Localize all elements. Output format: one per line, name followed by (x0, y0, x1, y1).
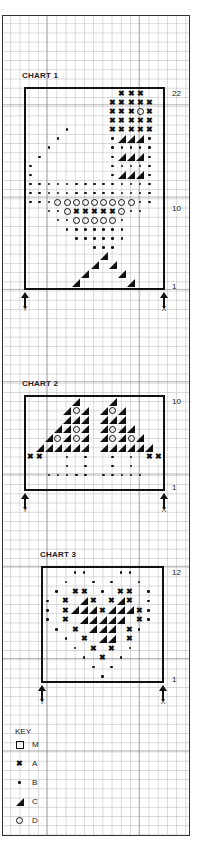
dot-stitch-icon (99, 471, 108, 480)
dot-stitch-icon (127, 179, 136, 188)
half-stitch-icon (127, 279, 136, 288)
cross-stitch-icon (117, 125, 126, 134)
circle-stitch-icon (127, 434, 136, 443)
dot-stitch-icon (99, 243, 108, 252)
half-stitch-icon (117, 170, 126, 179)
cross-stitch-icon (107, 644, 116, 653)
dot-stitch-icon (35, 198, 44, 207)
dot-stitch-icon (72, 225, 81, 234)
dot-stitch-icon (145, 143, 154, 152)
cross-stitch-icon (127, 98, 136, 107)
half-stitch-icon (116, 615, 125, 624)
chart-1-title: CHART 1 (22, 71, 58, 80)
half-stitch-icon (145, 443, 154, 452)
dot-stitch-icon (99, 189, 108, 198)
dot-stitch-icon (63, 125, 72, 134)
dot-stitch-icon (107, 662, 116, 671)
dot-stitch-icon (145, 198, 154, 207)
dot-stitch-icon (89, 578, 98, 587)
half-stitch-icon (117, 152, 126, 161)
cross-stitch-icon (108, 207, 117, 216)
dot-stitch-icon (26, 161, 35, 170)
dot-stitch-icon (108, 189, 117, 198)
dot-stitch-icon (98, 672, 107, 681)
cross-stitch-icon (99, 207, 108, 216)
cross-stitch-icon (117, 98, 126, 107)
half-stitch-icon (127, 134, 136, 143)
half-stitch-icon (108, 261, 117, 270)
chart-1-row-label-bottom: 1 (172, 282, 176, 291)
half-stitch-icon (117, 270, 126, 279)
dot-stitch-icon (127, 452, 136, 461)
dot-stitch-icon (44, 189, 53, 198)
cross-stitch-icon (117, 107, 126, 116)
half-stitch-icon (72, 397, 81, 406)
cross-stitch-icon (90, 207, 99, 216)
cross-stitch-icon (61, 615, 70, 624)
dot-stitch-icon (61, 634, 70, 643)
dot-stitch-icon (108, 452, 117, 461)
circle-stitch-icon (72, 434, 81, 443)
chart-1-row-label-mid: 10 (172, 204, 181, 213)
dot-stitch-icon (145, 189, 154, 198)
dot-stitch-icon (145, 152, 154, 161)
half-stitch-icon (99, 434, 108, 443)
dot-stitch-icon (99, 225, 108, 234)
cross-stitch-icon (98, 653, 107, 662)
dot-stitch-icon (43, 596, 52, 605)
dot-stitch-icon (125, 568, 134, 577)
cross-stitch-icon (71, 587, 80, 596)
half-stitch-icon (98, 615, 107, 624)
half-stitch-icon (108, 443, 117, 452)
half-stitch-icon (89, 625, 98, 634)
cross-stitch-icon (71, 625, 80, 634)
circle-stitch-icon (108, 198, 117, 207)
dot-stitch-icon (117, 179, 126, 188)
cross-stitch-icon (117, 116, 126, 125)
dot-stitch-icon (108, 161, 117, 170)
cross-stitch-icon (136, 98, 145, 107)
dot-stitch-icon (127, 471, 136, 480)
half-stitch-icon (80, 615, 89, 624)
half-stitch-icon (63, 416, 72, 425)
dot-stitch-icon (72, 234, 81, 243)
dot-stitch-icon (108, 179, 117, 188)
cross-stitch-icon (80, 634, 89, 643)
dot-stitch-icon (53, 189, 62, 198)
dot-stitch-icon (144, 587, 153, 596)
half-stitch-icon (44, 443, 53, 452)
half-stitch-icon (127, 443, 136, 452)
half-stitch-icon (116, 596, 125, 605)
half-stitch-icon (81, 416, 90, 425)
circle-stitch-icon (90, 198, 99, 207)
half-stitch-icon (108, 397, 117, 406)
dot-stitch-icon (63, 189, 72, 198)
dot-stitch-icon (53, 216, 62, 225)
cross-stitch-icon (136, 125, 145, 134)
cross-stitch-icon (116, 587, 125, 596)
key-item-c: C (15, 796, 75, 808)
dot-stitch-icon (136, 207, 145, 216)
cross-stitch-icon (108, 125, 117, 134)
key-title: KEY (15, 727, 31, 736)
chart-2-arrow-x: X (160, 493, 168, 515)
circle-stitch-icon (72, 406, 81, 415)
circle-stitch-icon (127, 198, 136, 207)
half-triangle-icon (15, 797, 24, 806)
circle-stitch-icon (99, 198, 108, 207)
chart-3-row-label-top: 12 (172, 568, 181, 577)
half-stitch-icon (117, 406, 126, 415)
dot-stitch-icon (135, 625, 144, 634)
dot-stitch-icon (63, 225, 72, 234)
dot-stitch-icon (43, 615, 52, 624)
cross-stitch-icon (125, 596, 134, 605)
half-stitch-icon (81, 425, 90, 434)
dot-stitch-icon (35, 189, 44, 198)
key-item-a: A (15, 758, 75, 770)
dot-stitch-icon (72, 189, 81, 198)
key-item-d: D (15, 815, 75, 827)
dot-stitch-icon (136, 198, 145, 207)
circle-stitch-icon (81, 198, 90, 207)
dot-stitch-icon (81, 225, 90, 234)
dot-stitch-icon (81, 452, 90, 461)
